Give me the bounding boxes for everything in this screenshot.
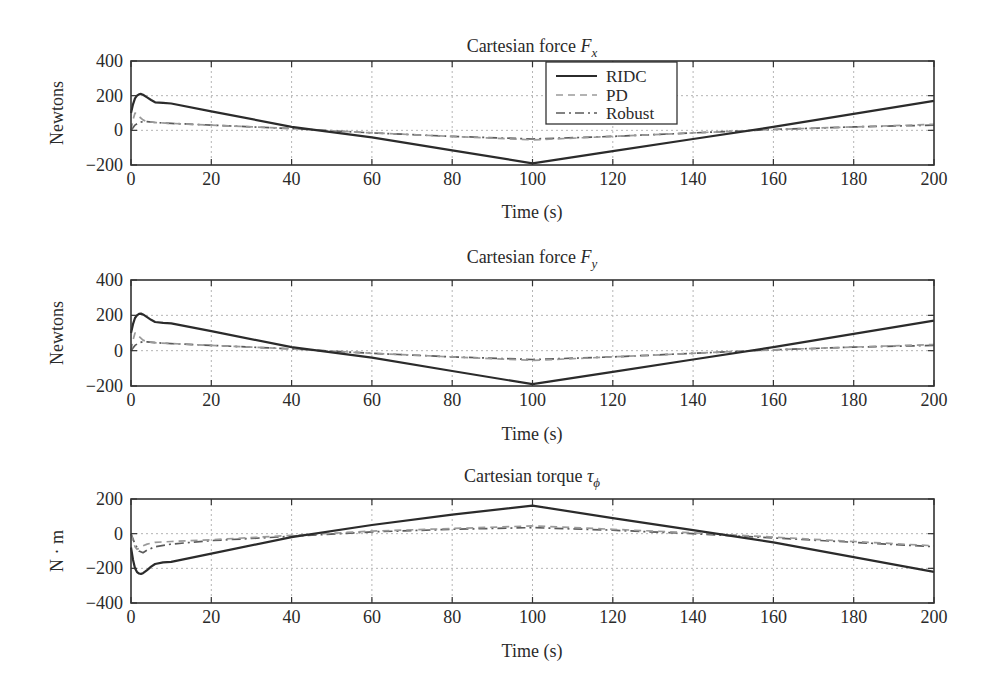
- x-tick-label: 0: [127, 169, 136, 189]
- y-tick-labels: −400−2000200: [86, 489, 123, 613]
- x-tick-label: 60: [363, 390, 381, 410]
- panel-tau: Cartesian torque τϕ 02040608010012014016…: [47, 466, 948, 662]
- x-tick-label: 40: [283, 607, 301, 627]
- x-tick-label: 60: [363, 607, 381, 627]
- x-tick-label: 140: [680, 390, 707, 410]
- x-tick-label: 200: [921, 607, 948, 627]
- x-tick-label: 160: [760, 607, 787, 627]
- data-series: [131, 314, 934, 385]
- x-tick-label: 140: [680, 169, 707, 189]
- x-axis-label: Time (s): [502, 641, 563, 662]
- x-tick-label: 20: [202, 390, 220, 410]
- x-tick-label: 180: [840, 169, 867, 189]
- x-tick-label: 160: [760, 169, 787, 189]
- x-tick-label: 100: [519, 169, 546, 189]
- x-axis-label: Time (s): [502, 424, 563, 445]
- x-tick-label: 100: [519, 390, 546, 410]
- panel-title: Cartesian force Fy: [467, 247, 598, 271]
- y-tick-label: −200: [86, 376, 123, 396]
- x-tick-label: 80: [443, 169, 461, 189]
- y-tick-label: 0: [114, 524, 123, 544]
- panel-title: Cartesian torque τϕ: [464, 466, 600, 490]
- y-tick-label: −200: [86, 558, 123, 578]
- grid-lines: [131, 499, 934, 603]
- y-axis-label: Newtons: [47, 81, 67, 145]
- x-tick-label: 120: [599, 607, 626, 627]
- x-tick-label: 120: [599, 169, 626, 189]
- x-tick-label: 160: [760, 390, 787, 410]
- x-tick-labels: 020406080100120140160180200: [127, 607, 948, 627]
- x-tick-label: 180: [840, 607, 867, 627]
- legend-label-pd: PD: [606, 86, 628, 105]
- y-axis-label: N · m: [47, 530, 67, 572]
- panel-fx: Cartesian force Fx 020406080100120140160…: [47, 36, 948, 223]
- y-tick-label: 0: [114, 120, 123, 140]
- y-tick-label: 200: [96, 86, 123, 106]
- y-tick-label: −400: [86, 593, 123, 613]
- grid-lines: [131, 61, 934, 165]
- x-tick-label: 40: [283, 169, 301, 189]
- y-axis-label: Newtons: [47, 301, 67, 365]
- y-tick-label: 400: [96, 270, 123, 290]
- y-tick-label: 200: [96, 489, 123, 509]
- x-tick-label: 140: [680, 607, 707, 627]
- panel-title: Cartesian force Fx: [467, 36, 598, 60]
- x-tick-label: 20: [202, 607, 220, 627]
- y-tick-label: 200: [96, 305, 123, 325]
- x-tick-label: 80: [443, 390, 461, 410]
- x-axis-label: Time (s): [502, 202, 563, 223]
- x-tick-label: 180: [840, 390, 867, 410]
- x-tick-labels: 020406080100120140160180200: [127, 169, 948, 189]
- y-tick-label: 400: [96, 51, 123, 71]
- x-tick-label: 120: [599, 390, 626, 410]
- x-tick-label: 40: [283, 390, 301, 410]
- legend-label-ridc: RIDC: [606, 67, 647, 86]
- figure: Cartesian force Fx 020406080100120140160…: [0, 0, 991, 693]
- y-tick-labels: −2000200400: [86, 51, 123, 175]
- x-tick-label: 60: [363, 169, 381, 189]
- legend: RIDC PD Robust: [546, 62, 677, 124]
- x-tick-label: 100: [519, 607, 546, 627]
- x-tick-label: 0: [127, 390, 136, 410]
- x-tick-label: 0: [127, 607, 136, 627]
- panel-fy: Cartesian force Fy 020406080100120140160…: [47, 247, 948, 445]
- x-tick-label: 20: [202, 169, 220, 189]
- x-tick-label: 80: [443, 607, 461, 627]
- y-tick-label: 0: [114, 341, 123, 361]
- legend-label-robust: Robust: [606, 104, 654, 123]
- x-tick-labels: 020406080100120140160180200: [127, 390, 948, 410]
- grid-lines: [131, 280, 934, 386]
- y-tick-label: −200: [86, 155, 123, 175]
- x-tick-label: 200: [921, 169, 948, 189]
- x-tick-label: 200: [921, 390, 948, 410]
- y-tick-labels: −2000200400: [86, 270, 123, 396]
